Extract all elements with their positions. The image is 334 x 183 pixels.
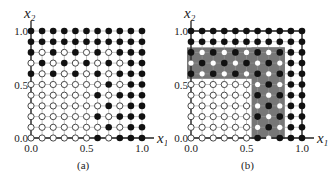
filled-dot: [243, 28, 250, 35]
open-dot: [211, 61, 216, 66]
open-dot: [210, 114, 216, 120]
panel-a: 0.00.51.00.00.51.0x1x2 (a): [0, 0, 167, 183]
svg-text:0.5: 0.5: [80, 142, 94, 154]
open-dot: [232, 81, 238, 87]
open-dot: [39, 124, 45, 130]
open-dot: [255, 61, 260, 66]
open-dot: [28, 135, 34, 141]
open-dot: [243, 124, 249, 130]
filled-dot: [139, 28, 146, 35]
filled-dot: [28, 71, 35, 78]
open-dot: [210, 135, 216, 141]
open-dot: [83, 49, 89, 55]
filled-dot: [243, 38, 250, 45]
filled-dot: [105, 28, 112, 35]
filled-dot: [299, 113, 306, 120]
svg-text:0.5: 0.5: [240, 142, 254, 154]
filled-dot: [128, 81, 135, 88]
open-dot: [199, 135, 205, 141]
open-dot: [83, 103, 89, 109]
filled-dot: [232, 38, 239, 45]
open-dot: [243, 92, 249, 98]
filled-dot: [277, 28, 284, 35]
filled-dot: [288, 71, 295, 78]
open-dot: [50, 81, 56, 87]
open-dot: [232, 92, 238, 98]
filled-dot: [277, 135, 284, 142]
filled-dot: [139, 81, 146, 88]
filled-dot: [299, 71, 306, 78]
filled-dot: [83, 38, 90, 45]
open-dot: [39, 92, 45, 98]
svg-text:1.0: 1.0: [174, 25, 188, 37]
filled-dot: [94, 28, 101, 35]
open-dot: [277, 82, 282, 87]
filled-dot: [299, 38, 306, 45]
open-dot: [221, 114, 227, 120]
filled-dot: [117, 49, 124, 56]
open-dot: [210, 81, 216, 87]
open-dot: [72, 135, 78, 141]
filled-dot: [288, 135, 295, 142]
filled-dot: [210, 28, 217, 35]
filled-dot: [199, 60, 206, 67]
filled-dot: [72, 71, 79, 78]
filled-dot: [139, 124, 146, 131]
open-dot: [232, 114, 238, 120]
open-dot: [221, 135, 227, 141]
filled-dot: [188, 49, 195, 56]
open-dot: [243, 103, 249, 109]
filled-dot: [277, 49, 284, 56]
open-dot: [50, 92, 56, 98]
filled-dot: [288, 49, 295, 56]
open-dot: [243, 135, 249, 141]
filled-dot: [243, 60, 250, 67]
open-dot: [117, 60, 123, 66]
open-dot: [83, 124, 89, 130]
open-dot: [39, 71, 45, 77]
filled-dot: [254, 113, 261, 120]
filled-dot: [188, 71, 195, 78]
filled-dot: [117, 113, 124, 120]
open-dot: [117, 124, 123, 130]
filled-dot: [265, 103, 272, 110]
filled-dot: [288, 60, 295, 67]
open-dot: [61, 103, 67, 109]
open-dot: [28, 103, 34, 109]
open-dot: [61, 124, 67, 130]
filled-dot: [105, 60, 112, 67]
open-dot: [199, 92, 205, 98]
filled-dot: [28, 38, 35, 45]
open-dot: [50, 135, 56, 141]
open-dot: [72, 114, 78, 120]
svg-text:1.0: 1.0: [135, 142, 149, 154]
filled-dot: [50, 28, 57, 35]
open-dot: [221, 81, 227, 87]
open-dot: [95, 103, 101, 109]
open-dot: [83, 135, 89, 141]
filled-dot: [288, 92, 295, 99]
open-dot: [210, 124, 216, 130]
filled-dot: [299, 135, 306, 142]
open-dot: [255, 125, 260, 130]
open-dot: [277, 61, 282, 66]
caption-b: (b): [241, 159, 254, 171]
open-dot: [72, 81, 78, 87]
open-dot: [199, 114, 205, 120]
filled-dot: [232, 28, 239, 35]
filled-dot: [128, 38, 135, 45]
svg-text:0.0: 0.0: [24, 142, 38, 154]
open-dot: [106, 114, 112, 120]
open-dot: [39, 81, 45, 87]
filled-dot: [221, 38, 228, 45]
svg-text:1.0: 1.0: [295, 142, 309, 154]
open-dot: [61, 135, 67, 141]
filled-dot: [28, 49, 35, 56]
open-dot: [266, 114, 271, 119]
filled-dot: [61, 60, 68, 67]
dots: [28, 28, 146, 142]
filled-dot: [94, 135, 101, 142]
open-dot: [83, 81, 89, 87]
filled-dot: [254, 135, 261, 142]
filled-dot: [210, 71, 217, 78]
